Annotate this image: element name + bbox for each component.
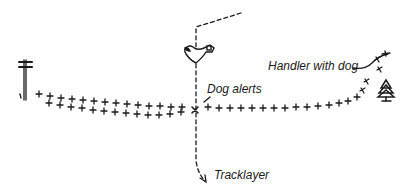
tracklayer-label: Tracklayer <box>214 168 269 182</box>
diagram-canvas <box>0 0 412 194</box>
tracklayer-path <box>196 13 241 181</box>
alert-marker-icon <box>192 107 198 113</box>
tree-icon <box>378 80 394 101</box>
alert-pointer-icon <box>204 97 210 102</box>
handler-leader-line <box>353 54 388 68</box>
bird-icon <box>185 45 214 63</box>
dog-track-footprints <box>36 91 185 118</box>
telephone-pole-icon <box>19 60 32 100</box>
handler-label: Handler with dog <box>268 59 358 73</box>
tracking-diagram: Handler with dog Dog alerts Tracklayer <box>0 0 412 194</box>
dog-alerts-label: Dog alerts <box>207 82 262 96</box>
